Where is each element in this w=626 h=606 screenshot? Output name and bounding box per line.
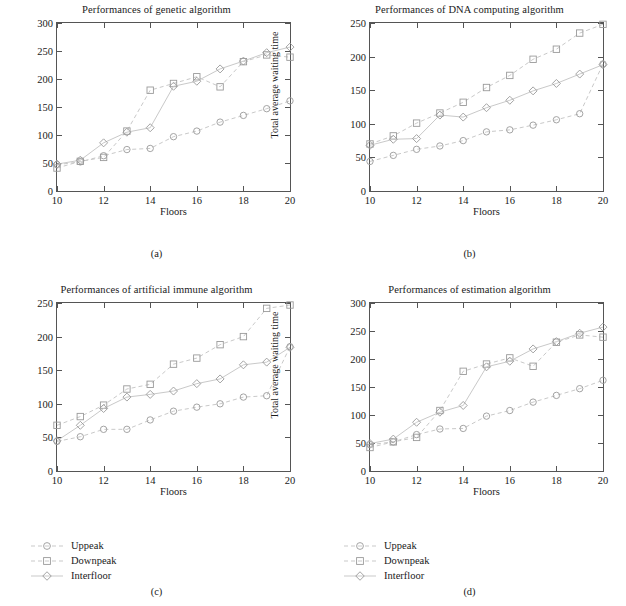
circle-marker-icon [240,112,246,118]
x-tick-label: 18 [238,475,249,486]
square-marker-icon [460,99,466,105]
subplot-d: Performances of estimation algorithm Tot… [313,280,626,520]
y-tick-label: 100 [37,398,53,409]
subplot-cell-b: Performances of DNA computing algorithm … [313,0,626,280]
legend-item-downpeak[interactable]: Downpeak [30,553,117,568]
plot-area-b: 050100150200250101214161820 [369,22,604,192]
y-tick-label: 150 [350,85,366,96]
y-tick-label: 200 [350,354,366,365]
x-tick-label: 18 [551,195,562,206]
x-tick-label: 16 [505,195,516,206]
y-tick-label: 250 [350,18,366,29]
y-tick-mark [57,471,62,472]
y-tick-label: 250 [37,46,53,57]
subplot-caption-b: (b) [313,248,626,259]
x-tick-label: 14 [145,195,156,206]
legend-d: UppeakDownpeakInterfloor [343,538,430,583]
circle-marker-icon [460,137,466,143]
legend-label: Interfloor [71,570,111,581]
legend-item-uppeak[interactable]: Uppeak [343,538,430,553]
x-tick-label: 16 [192,475,203,486]
x-axis-label-a: Floors [56,206,291,217]
x-axis-label-b: Floors [369,206,604,217]
x-tick-label: 14 [458,475,469,486]
series-line-interfloor [370,65,603,146]
x-tick-label: 10 [52,195,63,206]
x-tick-label: 10 [365,195,376,206]
legend-item-interfloor[interactable]: Interfloor [343,568,430,583]
legend-item-uppeak[interactable]: Uppeak [30,538,117,553]
circle-marker-icon [600,377,606,383]
square-marker-icon [54,422,60,428]
x-tick-label: 10 [365,475,376,486]
series-layer [370,23,603,191]
x-tick-mark [603,186,604,191]
legend-item-downpeak[interactable]: Downpeak [343,553,430,568]
x-tick-mark [290,186,291,191]
legend-symbol [30,569,64,583]
x-tick-label: 12 [98,195,109,206]
y-tick-label: 50 [43,158,54,169]
legend-symbol [30,539,64,553]
subplot-c: Performances of artificial immune algori… [0,280,313,520]
circle-marker-icon [287,98,293,104]
x-tick-label: 12 [98,475,109,486]
subplot-caption-c: (c) [0,586,313,597]
y-tick-label: 200 [37,74,53,85]
x-tick-label: 18 [238,195,249,206]
y-tick-mark [598,191,603,192]
figure-grid: Performances of genetic algorithm Total … [0,0,626,606]
x-tick-mark [290,23,291,28]
y-tick-label: 300 [350,298,366,309]
chart-title-c: Performances of artificial immune algori… [0,284,313,295]
legend-label: Downpeak [384,555,430,566]
legend-label: Uppeak [384,540,417,551]
y-tick-mark [370,191,375,192]
y-tick-mark [598,471,603,472]
y-tick-label: 200 [37,331,53,342]
diamond-marker-icon [599,323,607,331]
y-tick-mark [370,471,375,472]
y-axis-label-d: Total average waiting time [269,280,281,450]
y-tick-label: 250 [37,298,53,309]
square-marker-icon [553,46,559,52]
x-tick-label: 20 [598,475,609,486]
legend-label: Interfloor [384,570,424,581]
y-tick-label: 50 [356,438,367,449]
y-tick-label: 50 [356,152,367,163]
series-line-downpeak [57,305,290,425]
chart-title-d: Performances of estimation algorithm [313,284,626,295]
y-tick-label: 250 [350,326,366,337]
plot-area-d: 050100150200250300101214161820 [369,302,604,472]
x-tick-label: 12 [411,195,422,206]
y-axis-label-b: Total average waiting time [269,0,281,170]
plot-area-c: 050100150200250101214161820 [56,302,291,472]
x-tick-mark [603,466,604,471]
y-tick-mark [57,191,62,192]
y-tick-label: 150 [37,365,53,376]
subplot-a: Performances of genetic algorithm Total … [0,0,313,240]
subplot-caption-d: (d) [313,586,626,597]
x-axis-label-c: Floors [56,486,291,497]
legend-symbol [343,554,377,568]
legend-item-interfloor[interactable]: Interfloor [30,568,117,583]
legend-label: Downpeak [71,555,117,566]
legend-label: Uppeak [71,540,104,551]
circle-marker-icon [147,417,153,423]
series-layer [57,303,290,471]
circle-marker-icon [553,392,559,398]
circle-marker-icon [194,128,200,134]
legend-c: UppeakDownpeakInterfloor [30,538,117,583]
y-tick-label: 150 [350,382,366,393]
x-tick-label: 20 [285,195,296,206]
x-tick-label: 18 [551,475,562,486]
x-tick-label: 14 [145,475,156,486]
series-line-interfloor [370,327,603,443]
y-tick-label: 100 [37,130,53,141]
legend-symbol [343,539,377,553]
y-tick-label: 50 [43,432,54,443]
x-axis-label-d: Floors [369,486,604,497]
y-tick-mark [285,471,290,472]
x-tick-label: 20 [285,475,296,486]
x-tick-label: 12 [411,475,422,486]
